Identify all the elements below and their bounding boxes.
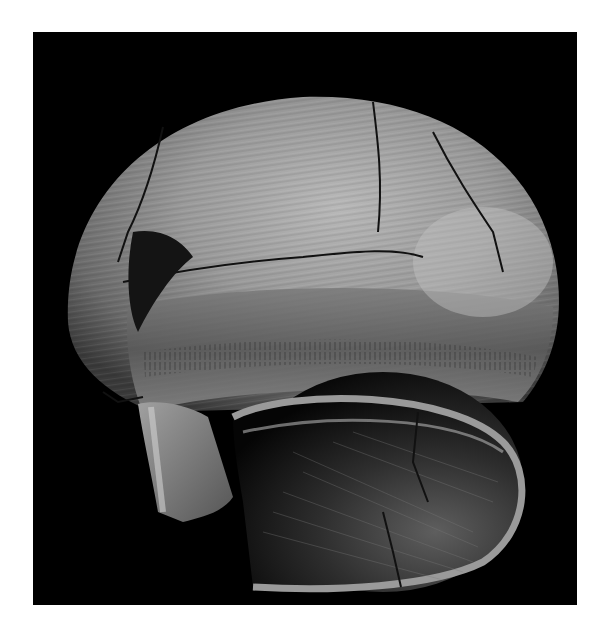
pottery-vessel-illustration bbox=[33, 32, 577, 605]
vessel-rim-opening bbox=[233, 372, 523, 592]
photo-frame: Black-and-white photograph of a fragment… bbox=[33, 32, 577, 605]
